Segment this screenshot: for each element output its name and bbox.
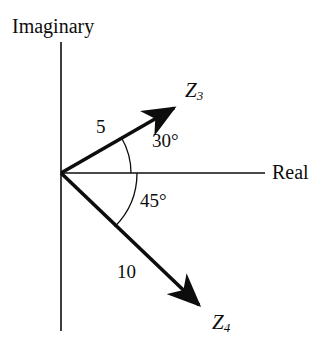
vector-z4-arrow-icon [61,173,199,305]
vector-z3-label-base: Z [185,78,197,102]
vector-z4-label-subscript: 4 [224,320,231,335]
vector-z3-label: Z3 [185,80,203,102]
angle-label-30: 30° [152,131,179,150]
real-axis-label: Real [272,162,309,182]
phasor-diagram-figure: Imaginary Real Z3 Z4 30° 45° 5 10 [0,0,336,349]
vector-z4-label-base: Z [212,310,224,334]
angle-arc-45-icon [115,173,137,227]
magnitude-label-z4: 10 [117,262,136,281]
magnitude-label-z3: 5 [96,117,106,136]
angle-arc-30-icon [122,138,131,173]
vector-z3-label-subscript: 3 [197,88,204,103]
vector-z4-label: Z4 [212,312,230,334]
imaginary-axis-label: Imaginary [12,16,94,36]
angle-label-45: 45° [140,191,167,210]
